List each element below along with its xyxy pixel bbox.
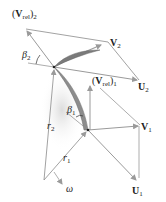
beta-2-arc xyxy=(36,55,40,64)
label-v-2: V2 xyxy=(110,38,121,50)
label-v-rel-1: (Vrel)1 xyxy=(92,76,117,88)
blade-outlet xyxy=(54,50,100,67)
blade-shadow xyxy=(40,70,84,150)
impeller-velocity-diagram: (Vrel)2 V2 U2 β2 (Vrel)1 β1 V1 U1 r2 r1 … xyxy=(0,0,166,202)
label-beta-2: β2 xyxy=(22,50,30,62)
outlet-point xyxy=(53,66,56,69)
label-beta-1: β1 xyxy=(67,105,75,117)
omega-arrow xyxy=(54,172,62,184)
label-v-1: V1 xyxy=(141,122,152,134)
label-omega: ω xyxy=(66,184,73,194)
label-v-rel-2: (Vrel)2 xyxy=(12,9,37,21)
inlet-point xyxy=(87,129,90,132)
label-r-1: r1 xyxy=(63,153,70,165)
diagram-graphics xyxy=(0,0,166,202)
label-r-2: r2 xyxy=(47,121,54,133)
label-u-2: U2 xyxy=(138,82,149,94)
label-u-1: U1 xyxy=(132,186,143,198)
